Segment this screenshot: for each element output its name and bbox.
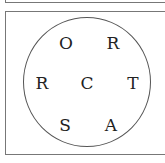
top-panel <box>5 0 165 3</box>
letter-s: S <box>59 117 71 134</box>
letter-r-top: R <box>107 35 120 52</box>
letter-r-left: R <box>36 75 49 92</box>
letter-a: A <box>105 117 117 134</box>
letter-o: O <box>59 35 73 52</box>
letter-c-center: C <box>80 75 93 92</box>
letter-t: T <box>127 75 138 92</box>
